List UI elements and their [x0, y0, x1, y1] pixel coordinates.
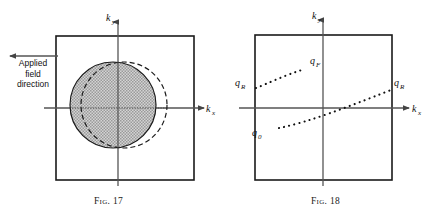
label-q-r-left-sub: R [240, 83, 246, 91]
fig18-kx-sublabel: x [417, 109, 422, 117]
label-q-f: q [310, 55, 315, 66]
fig17-kx-sublabel: x [211, 109, 216, 117]
label-q-r-left: q [235, 77, 240, 88]
label-q-r-right: q [394, 77, 399, 88]
fig18-lower-dotted-branch [279, 90, 391, 128]
fig18-kx-label: k [412, 103, 417, 114]
figure-17-caption-prefix: Fig. [94, 196, 110, 206]
label-q-r-right-sub: R [399, 83, 405, 91]
figure-pair: k y k x Applied field direction Fig. 17 [0, 0, 434, 220]
figure-17-caption-number: 17 [113, 196, 123, 206]
figure-17-caption: Fig. 17 [0, 196, 217, 206]
figure-17: k y k x Applied field direction Fig. 17 [0, 0, 217, 220]
fig17-ky-sublabel: y [111, 18, 116, 26]
figure-18-caption: Fig. 18 [217, 196, 434, 206]
label-q-0-sub: 0 [258, 133, 262, 141]
fig18-upper-dotted-branch [256, 69, 305, 88]
figure-17-graphic: k y k x [0, 0, 217, 196]
figure-18: k y k x q R q F q 0 q R Fig. 18 [217, 0, 434, 220]
fig17-kx-label: k [206, 103, 211, 114]
figure-18-caption-prefix: Fig. [311, 196, 327, 206]
fig18-ky-label: k [312, 10, 317, 21]
figure-18-graphic: k y k x q R q F q 0 q R [217, 0, 434, 196]
applied-field-direction-label: Applied field direction [4, 58, 62, 90]
figure-18-caption-number: 18 [330, 196, 340, 206]
label-q-f-sub: F [315, 61, 321, 69]
fig17-shaded-fermi-circle [70, 62, 156, 148]
label-q-0: q [252, 127, 257, 138]
fig18-ky-sublabel: y [317, 16, 322, 24]
fig17-ky-label: k [106, 12, 111, 23]
